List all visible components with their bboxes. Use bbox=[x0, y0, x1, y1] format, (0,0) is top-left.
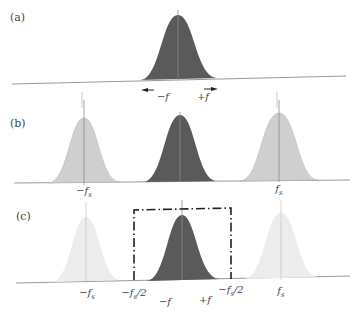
label-fs-c: fs bbox=[277, 285, 284, 299]
label-minus-fs-b: −fs bbox=[76, 185, 92, 199]
left-arrow-icon bbox=[141, 88, 148, 92]
label-minus-f-c: −f bbox=[159, 296, 171, 307]
label-subscript: s bbox=[91, 293, 95, 301]
panel-c bbox=[16, 200, 350, 283]
baseband-spectrum-c bbox=[146, 215, 220, 281]
label-minus-fs-c: −fs bbox=[79, 287, 95, 301]
label-subscript: s bbox=[279, 189, 283, 197]
label-subscript: s bbox=[281, 291, 285, 299]
panel-a bbox=[12, 10, 346, 108]
label-tail: /2 bbox=[137, 287, 147, 298]
panel-label-c: (c) bbox=[16, 210, 31, 223]
label-plus-f-a: +f bbox=[197, 91, 209, 102]
label-text: −f bbox=[79, 287, 91, 298]
label-fs-b: fs bbox=[275, 183, 282, 197]
label-minus-f-a: −f bbox=[157, 91, 169, 102]
label-plus-f-c: +f bbox=[199, 294, 211, 305]
panel-label-b: (b) bbox=[10, 117, 26, 130]
right-arrow-icon bbox=[211, 87, 218, 91]
baseband-spectrum-a bbox=[140, 15, 218, 80]
panel-b bbox=[14, 100, 350, 185]
label-text: −f bbox=[218, 284, 230, 295]
panel-label-a: (a) bbox=[10, 11, 25, 24]
label-tail: /2 bbox=[234, 284, 244, 295]
label-text: −f bbox=[121, 287, 133, 298]
label-subscript: s bbox=[88, 191, 92, 199]
sampling-spectrum-diagram bbox=[0, 0, 358, 319]
label-text: −f bbox=[76, 185, 88, 196]
label-right-nyquist-c: −fs/2 bbox=[218, 284, 243, 298]
label-left-nyquist-c: −fs/2 bbox=[121, 287, 146, 301]
